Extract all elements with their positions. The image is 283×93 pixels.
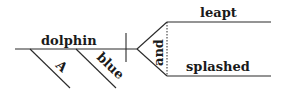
modifier-word-blue: blue — [94, 49, 127, 82]
subject-word: dolphin — [41, 33, 97, 48]
conjunction-word: and — [151, 39, 166, 66]
predicate-word-top: leapt — [200, 5, 237, 20]
sentence-diagram: dolphin A blue and leapt splashed — [0, 0, 283, 93]
predicate-word-bottom: splashed — [186, 59, 250, 74]
